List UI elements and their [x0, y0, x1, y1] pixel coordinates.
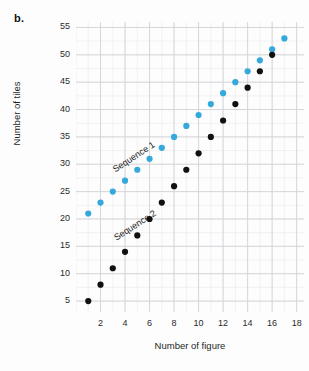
data-point [146, 156, 152, 162]
data-point [220, 117, 226, 123]
x-tick-label: 2 [89, 318, 113, 328]
data-point [269, 46, 275, 52]
y-tick-label: 40 [42, 104, 70, 114]
data-point [269, 52, 275, 58]
data-point [110, 189, 116, 195]
x-axis-title: Number of figure [76, 340, 304, 351]
x-tick-label: 8 [162, 318, 186, 328]
x-tick-label: 18 [285, 318, 309, 328]
data-point [159, 199, 165, 205]
data-point [281, 35, 287, 41]
data-point [232, 101, 238, 107]
data-point [195, 112, 201, 118]
y-tick-label: 25 [42, 186, 70, 196]
y-tick-label: 15 [42, 240, 70, 250]
data-point [97, 282, 103, 288]
data-point [171, 183, 177, 189]
data-point [159, 145, 165, 151]
data-point [208, 134, 214, 140]
x-tick-label: 6 [138, 318, 162, 328]
data-point [220, 90, 226, 96]
data-point [85, 210, 91, 216]
x-tick-label: 16 [260, 318, 284, 328]
y-tick-label: 30 [42, 158, 70, 168]
y-tick-label: 5 [42, 295, 70, 305]
data-point [245, 68, 251, 74]
data-point [97, 199, 103, 205]
panel-letter: b. [14, 12, 24, 24]
y-tick-label: 55 [42, 21, 70, 31]
data-point [257, 68, 263, 74]
y-tick-label: 20 [42, 213, 70, 223]
data-point [195, 150, 201, 156]
data-point [232, 79, 238, 85]
x-tick-label: 4 [113, 318, 137, 328]
y-tick-label: 45 [42, 76, 70, 86]
data-point [134, 232, 140, 238]
x-tick-label: 10 [187, 318, 211, 328]
figure-panel: b. Number of tiles Number of figure Sequ… [0, 0, 309, 371]
data-point [183, 167, 189, 173]
data-point [110, 265, 116, 271]
y-tick-label: 10 [42, 268, 70, 278]
data-point [208, 101, 214, 107]
y-tick-label: 50 [42, 49, 70, 59]
data-point [257, 57, 263, 63]
data-point [122, 249, 128, 255]
data-point [134, 167, 140, 173]
series-annotation-layer: Sequence 1Sequence 2 [111, 140, 158, 243]
data-point [183, 123, 189, 129]
data-point [171, 134, 177, 140]
data-point [245, 85, 251, 91]
scatter-plot-svg: Sequence 1Sequence 2 [76, 22, 304, 312]
data-point [122, 178, 128, 184]
data-point [85, 298, 91, 304]
y-axis-title: Number of tiles [11, 34, 22, 194]
plot-area: Sequence 1Sequence 2 [76, 22, 304, 312]
x-tick-label: 14 [236, 318, 260, 328]
x-tick-label: 12 [211, 318, 235, 328]
y-tick-label: 35 [42, 131, 70, 141]
